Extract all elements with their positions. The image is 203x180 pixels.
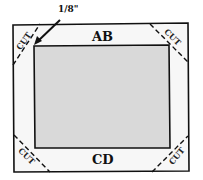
mat-diagram: 1/8" AB CD CUT CUT CUT CUT — [0, 0, 203, 180]
edge-label-top: AB — [92, 29, 113, 44]
inner-panel — [34, 45, 170, 148]
measurement-label: 1/8" — [58, 4, 79, 14]
edge-label-bottom: CD — [92, 152, 114, 167]
